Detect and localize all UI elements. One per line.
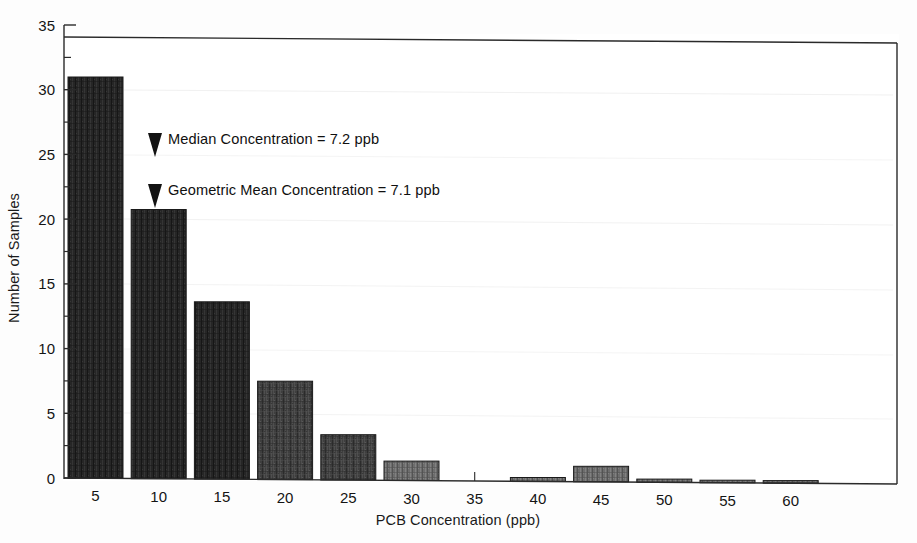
x-tick-label: 15: [214, 488, 231, 505]
x-tick-label: 5: [91, 487, 99, 504]
geometric-mean-annotation-label: Geometric Mean Concentration = 7.1 ppb: [168, 182, 440, 198]
y-tick-label: 20: [38, 211, 55, 228]
chart-figure: 05101520253035 51015202530354045505560 P…: [0, 0, 917, 543]
x-tick-label: 20: [277, 489, 294, 506]
x-tick-label: 55: [719, 492, 736, 509]
median-annotation-label: Median Concentration = 7.2 ppb: [168, 131, 379, 147]
x-tick-label: 45: [593, 491, 610, 508]
x-tick-label: 60: [782, 492, 799, 509]
y-tick-labels: 05101520253035: [38, 17, 55, 487]
bar: [131, 210, 186, 479]
bar-chart: 05101520253035 51015202530354045505560 P…: [0, 0, 917, 543]
x-axis-title: PCB Concentration (ppb): [376, 512, 540, 528]
bar: [68, 77, 123, 478]
y-tick-label: 15: [38, 275, 55, 292]
x-tick-labels: 51015202530354045505560: [91, 487, 799, 509]
y-tick-label: 10: [38, 340, 55, 357]
x-tick-label: 30: [403, 490, 420, 507]
x-tick-label: 40: [530, 490, 547, 507]
y-tick-label: 0: [47, 470, 55, 487]
x-tick-label: 35: [466, 490, 483, 507]
y-tick-label: 35: [38, 17, 55, 34]
x-tick-label: 25: [340, 489, 357, 506]
y-tick-label: 25: [38, 146, 55, 163]
y-tick-label: 5: [47, 405, 55, 422]
x-tick-label: 50: [656, 491, 673, 508]
y-tick-label: 30: [38, 81, 55, 98]
y-axis-title: Number of Samples: [6, 193, 22, 323]
bar: [194, 302, 249, 479]
x-tick-label: 10: [150, 488, 167, 505]
bar: [258, 381, 313, 479]
